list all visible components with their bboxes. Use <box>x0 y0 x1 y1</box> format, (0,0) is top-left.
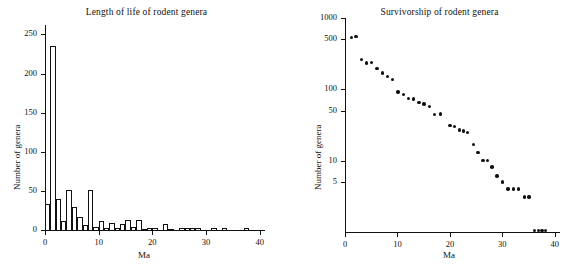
scatter-point <box>481 159 484 162</box>
x-axis-line-left <box>45 230 265 231</box>
scatter-point <box>476 151 479 154</box>
scatter-point <box>472 143 475 146</box>
histogram-bar <box>195 228 200 230</box>
x-tick-right <box>502 232 503 237</box>
x-tick-right <box>345 232 346 237</box>
y-axis-line-right <box>345 18 346 232</box>
y-tick-left <box>41 152 46 153</box>
y-tick-label-right: 10 <box>329 155 338 165</box>
y-tick-right <box>341 182 346 183</box>
y-tick-label-left: 200 <box>24 68 37 78</box>
scatter-point <box>375 67 378 70</box>
scatter-point <box>381 71 384 74</box>
x-tick-label-left: 30 <box>202 237 211 247</box>
histogram-bar <box>152 228 157 230</box>
scatter-point <box>506 187 509 190</box>
x-tick-label-left: 40 <box>255 237 264 247</box>
y-tick-left <box>41 74 46 75</box>
x-tick-left <box>99 230 100 235</box>
y-tick-label-left: 100 <box>24 146 37 156</box>
scatter-point <box>439 112 442 115</box>
x-tick-label-left: 0 <box>43 237 47 247</box>
x-tick-right <box>397 232 398 237</box>
scatter-point <box>365 61 368 64</box>
scatter-point <box>354 35 357 38</box>
scatter-point <box>407 97 410 100</box>
x-axis-label-right: Ma <box>443 250 455 260</box>
scatter-point <box>512 187 515 190</box>
y-tick-label-right: 100 <box>324 83 337 93</box>
y-tick-label-right: 5 <box>333 176 337 186</box>
y-tick-left <box>41 191 46 192</box>
x-tick-label-right: 40 <box>551 239 560 249</box>
y-tick-label-right: 500 <box>324 33 337 43</box>
scatter-point <box>391 78 394 81</box>
scatter-point <box>466 131 469 134</box>
histogram-bar <box>168 229 173 230</box>
y-tick-right <box>341 18 346 19</box>
y-tick-right <box>341 39 346 40</box>
scatter-point <box>501 180 504 183</box>
scatter-point <box>417 101 420 104</box>
y-axis-line-left <box>45 25 46 230</box>
panel-length-of-life: Length of life of rodent genera Number o… <box>0 0 293 269</box>
x-axis-label-left: Ma <box>138 250 150 260</box>
x-tick-right <box>450 232 451 237</box>
x-tick-label-left: 20 <box>148 237 157 247</box>
x-tick-label-right: 30 <box>498 239 507 249</box>
scatter-point <box>486 159 489 162</box>
scatter-point <box>523 195 526 198</box>
scatter-point <box>402 93 405 96</box>
scatter-point <box>458 128 461 131</box>
histogram-bar <box>222 228 227 230</box>
scatter-point <box>386 75 389 78</box>
scatter-point <box>350 36 353 39</box>
x-tick-left <box>45 230 46 235</box>
scatter-point <box>527 195 530 198</box>
y-tick-label-left: 150 <box>24 107 37 117</box>
plot-area-left: 050100150200250010203040 <box>45 25 265 230</box>
y-tick-label-right: 1000 <box>320 12 337 22</box>
scatter-point <box>360 58 363 61</box>
x-tick-left <box>260 230 261 235</box>
scatter-point <box>422 102 425 105</box>
y-tick-label-right: 50 <box>329 105 338 115</box>
x-tick-label-right: 20 <box>446 239 455 249</box>
histogram-bar <box>211 228 216 230</box>
y-tick-label-left: 0 <box>33 224 37 234</box>
panel-survivorship: Survivorship of rodent genera Number of … <box>293 0 586 269</box>
y-tick-right <box>341 89 346 90</box>
y-tick-label-left: 250 <box>24 28 37 38</box>
scatter-point <box>412 97 415 100</box>
y-axis-label-left: Number of genera <box>12 125 22 190</box>
scatter-point <box>370 61 373 64</box>
scatter-point <box>495 174 498 177</box>
y-tick-left <box>41 113 46 114</box>
x-tick-right <box>555 232 556 237</box>
x-tick-label-left: 10 <box>94 237 103 247</box>
figure-rodent-genera: Length of life of rodent genera Number o… <box>0 0 586 269</box>
y-tick-right <box>341 161 346 162</box>
chart-title-left: Length of life of rodent genera <box>0 7 293 17</box>
x-tick-left <box>152 230 153 235</box>
plot-area-right: 510501005001000010203040 <box>345 18 560 232</box>
scatter-point <box>462 129 465 132</box>
y-axis-label-right: Number of genera <box>313 125 323 190</box>
scatter-point <box>517 187 520 190</box>
scatter-point <box>490 165 493 168</box>
scatter-point <box>453 125 456 128</box>
y-tick-left <box>41 34 46 35</box>
scatter-point <box>448 124 451 127</box>
scatter-point <box>396 90 399 93</box>
x-tick-label-right: 10 <box>393 239 402 249</box>
x-axis-line-right <box>345 232 560 233</box>
histogram-bar <box>244 228 249 230</box>
y-tick-right <box>341 111 346 112</box>
y-tick-label-left: 50 <box>29 185 38 195</box>
x-tick-label-right: 0 <box>343 239 347 249</box>
scatter-point <box>433 113 436 116</box>
x-tick-left <box>206 230 207 235</box>
histogram-bar <box>88 190 93 230</box>
scatter-point <box>428 105 431 108</box>
